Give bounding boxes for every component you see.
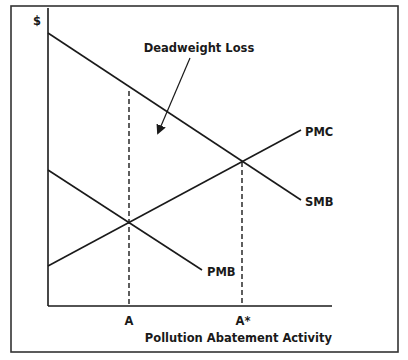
- y-axis-label: $: [33, 14, 41, 28]
- smb-curve: [48, 33, 301, 200]
- x-axis-label: Pollution Abatement Activity: [145, 331, 333, 345]
- deadweight-loss-diagram: $ Deadweight Loss PMC SMB PMB A A* Pollu…: [0, 0, 408, 360]
- smb-label: SMB: [305, 195, 334, 209]
- tick-label-a: A: [125, 314, 134, 328]
- pmc-curve: [48, 130, 301, 266]
- tick-label-a-star: A*: [236, 314, 251, 328]
- frame-border: [11, 6, 398, 352]
- pmb-curve: [48, 170, 202, 270]
- pmb-label: PMB: [207, 265, 236, 279]
- deadweight-loss-arrow: [158, 58, 190, 133]
- pmc-label: PMC: [305, 125, 333, 139]
- deadweight-loss-label: Deadweight Loss: [144, 41, 255, 55]
